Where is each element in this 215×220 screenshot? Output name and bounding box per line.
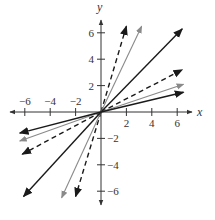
- vector-steep-gray: [101, 26, 142, 112]
- vector-flat-black: [101, 92, 184, 112]
- x-tick-label: −4: [44, 95, 56, 107]
- vector-shallow-dashed-black: [22, 112, 101, 154]
- y-tick-label: −4: [107, 159, 119, 171]
- x-tick-label: 4: [149, 117, 155, 129]
- x-tick-label: −6: [19, 95, 31, 107]
- y-tick-label: −2: [107, 132, 119, 144]
- vector-shallow-dashed-black: [101, 70, 182, 112]
- vector-steep-dashed-black: [76, 112, 101, 196]
- x-tick-label: 6: [174, 117, 180, 129]
- vector-flat-black: [20, 112, 101, 133]
- vector-diagonal-black: [24, 112, 101, 196]
- vector-steep-gray: [62, 112, 101, 198]
- y-axis-label: y: [96, 0, 103, 14]
- x-tick-label: −2: [70, 95, 82, 107]
- x-tick-label: 2: [124, 117, 130, 129]
- x-axis-label: x: [196, 105, 203, 119]
- axes: −6−4−2246 642−2−4−6 x y: [10, 0, 203, 205]
- y-tick-label: 4: [89, 53, 95, 65]
- y-tick-label: 2: [89, 80, 95, 92]
- vector-plot: −6−4−2246 642−2−4−6 x y: [0, 0, 215, 220]
- y-tick-label: 6: [89, 27, 95, 39]
- vector-shallow-gray: [20, 112, 101, 141]
- y-tick-label: −6: [107, 185, 119, 197]
- vector-shallow-gray: [101, 84, 184, 112]
